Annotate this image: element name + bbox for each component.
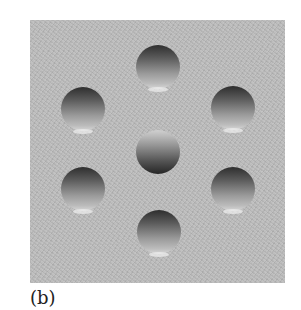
dimple-lower-left xyxy=(61,167,105,211)
dimple-lower-right xyxy=(211,167,255,211)
dimple-upper-left xyxy=(61,87,105,131)
panel-label: (b) xyxy=(30,288,56,308)
dimple-center xyxy=(136,130,180,174)
dimple-bottom xyxy=(137,210,181,254)
dimple-top xyxy=(136,45,180,89)
dimple-upper-right xyxy=(211,86,255,130)
